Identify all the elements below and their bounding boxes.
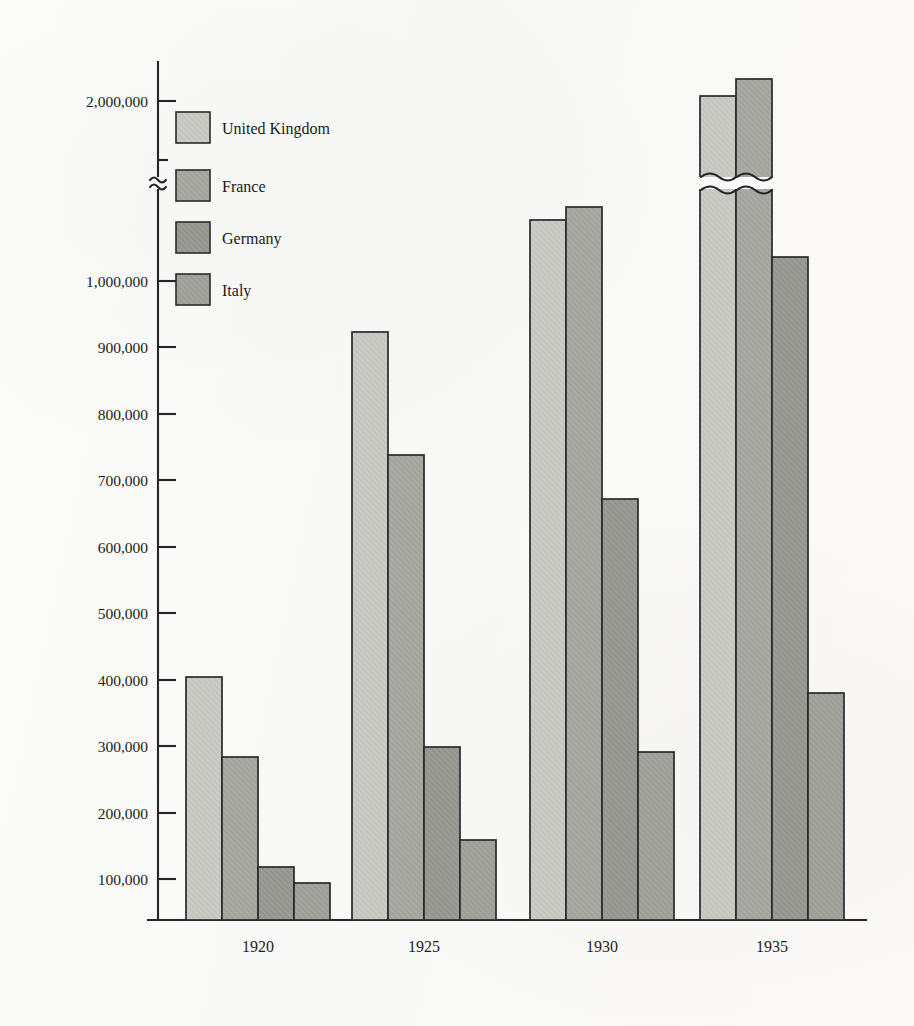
x-tick-label-1925: 1925 [408, 938, 440, 955]
legend-item-germany[interactable]: Germany [176, 222, 282, 253]
bar-1925-italy[interactable] [460, 840, 496, 920]
bar-1925-france[interactable] [388, 455, 424, 920]
bar-1920-germany[interactable] [258, 867, 294, 920]
x-tick-labels: 1920 1925 1930 1935 [242, 938, 788, 955]
x-tick-label-1930: 1930 [586, 938, 618, 955]
bar-1925-germany[interactable] [424, 747, 460, 920]
y-tick-label-300000: 300,000 [98, 738, 149, 755]
bar-1930-italy[interactable] [638, 752, 674, 920]
y-tick-label-500000: 500,000 [98, 605, 149, 622]
legend-item-france[interactable]: France [176, 170, 266, 201]
bar-group-1920 [186, 677, 330, 920]
legend-swatch-germany [176, 222, 210, 253]
bar-1935-france-lower[interactable] [736, 150, 772, 920]
bar-1930-germany[interactable] [602, 499, 638, 920]
legend-label-france: France [222, 178, 266, 195]
bar-1920-italy[interactable] [294, 883, 330, 920]
axis-y [150, 62, 176, 920]
bar-chart-plot: 2,000,000 1,000,000 900,000 800,000 700,… [0, 0, 914, 1026]
y-tick-label-1000000: 1,000,000 [86, 273, 148, 290]
legend-swatch-italy [176, 274, 210, 305]
legend-label-italy: Italy [222, 282, 251, 300]
x-tick-label-1920: 1920 [242, 938, 274, 955]
chart-figure: 2,000,000 1,000,000 900,000 800,000 700,… [0, 0, 914, 1026]
bar-1935-united-kingdom-upper[interactable] [700, 96, 736, 186]
bar-1935-united-kingdom-lower[interactable] [700, 150, 736, 920]
legend-item-italy[interactable]: Italy [176, 274, 251, 305]
bar-group-1925 [352, 332, 496, 920]
bar-1925-united-kingdom[interactable] [352, 332, 388, 920]
legend-label-germany: Germany [222, 230, 282, 248]
y-tick-label-2000000: 2,000,000 [86, 93, 148, 110]
bar-group-1935 [700, 79, 844, 920]
legend-label-united-kingdom: United Kingdom [222, 120, 331, 138]
bar-1920-france[interactable] [222, 757, 258, 920]
bar-1930-france[interactable] [566, 207, 602, 920]
bar-1935-france-upper[interactable] [736, 79, 772, 186]
x-tick-label-1935: 1935 [756, 938, 788, 955]
legend-swatch-france [176, 170, 210, 201]
y-tick-label-700000: 700,000 [98, 472, 149, 489]
legend-swatch-united-kingdom [176, 112, 210, 143]
bar-group-1930 [530, 207, 674, 920]
y-tick-label-200000: 200,000 [98, 805, 149, 822]
bar-1930-united-kingdom[interactable] [530, 220, 566, 920]
y-tick-labels: 2,000,000 1,000,000 900,000 800,000 700,… [86, 93, 148, 888]
bar-1920-united-kingdom[interactable] [186, 677, 222, 920]
y-tick-label-800000: 800,000 [98, 406, 149, 423]
y-tick-label-900000: 900,000 [98, 339, 149, 356]
y-tick-label-100000: 100,000 [98, 871, 149, 888]
bar-1935-italy[interactable] [808, 693, 844, 920]
bar-1935-germany[interactable] [772, 257, 808, 920]
legend-item-united-kingdom[interactable]: United Kingdom [176, 112, 331, 143]
y-tick-label-400000: 400,000 [98, 672, 149, 689]
axis-break-icon [150, 178, 166, 190]
y-tick-label-600000: 600,000 [98, 539, 149, 556]
chart-legend: United Kingdom France Germany Italy [176, 112, 331, 305]
